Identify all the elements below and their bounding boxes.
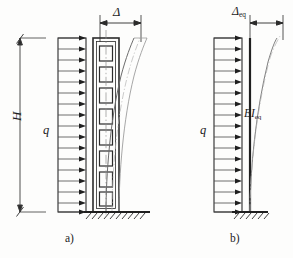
deflected-shape-b [250,36,280,212]
load-label-b: q [200,124,206,137]
stiffness-label-b-sub: eq [255,113,261,121]
deflection-label-a: Δ [113,6,120,19]
load-arrows-b [214,38,237,212]
deflection-label-b-sub: eq [239,10,246,19]
panel-caption-b: b) [230,233,240,245]
deflection-dimension-b [250,15,283,40]
load-arrowheads-a [79,35,86,214]
deflection-label-b-main: Δ [232,4,239,18]
height-label-a: H [10,112,23,121]
fixed-base-a [84,212,150,219]
stiffness-label-b-main: EI [244,107,255,119]
load-arrowheads-b [235,35,242,214]
height-dimension-a [17,34,47,217]
deflection-label-b: Δeq [232,5,246,17]
stiffness-label-b: EIeq [244,108,261,120]
panel-caption-a: a) [65,233,74,245]
structural-diagram: H q q Δ Δeq EIeq a) b) [0,0,293,258]
load-arrows-a [58,38,81,212]
load-label-a: q [43,124,49,137]
